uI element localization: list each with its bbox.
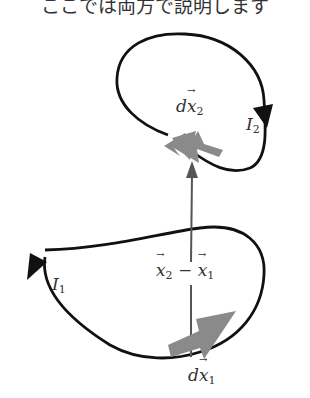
separation-vector-arrowhead bbox=[186, 161, 198, 178]
lower-current-loop bbox=[44, 227, 264, 358]
label-dx1: dx1 bbox=[188, 365, 215, 387]
current-loops-diagram bbox=[0, 0, 310, 398]
label-separation-vector: x2 − x1 bbox=[156, 260, 214, 282]
label-current-I2: I2 bbox=[246, 114, 260, 136]
label-current-I1: I1 bbox=[52, 274, 66, 296]
dx1-element-arrow bbox=[168, 311, 236, 359]
separation-vector-upper-segment bbox=[191, 175, 192, 262]
label-dx2: dx2 bbox=[176, 96, 203, 118]
